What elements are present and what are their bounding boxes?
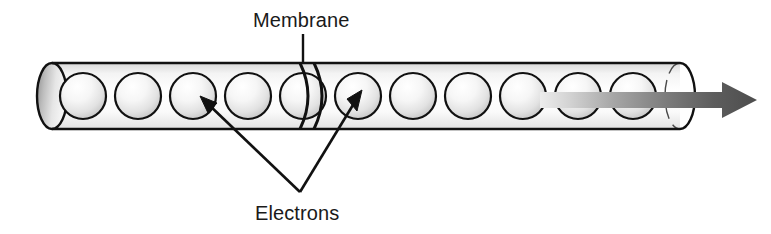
diagram-root: Membrane Electrons (0, 0, 771, 234)
electron-sphere (445, 73, 491, 119)
electron-sphere (60, 73, 106, 119)
electron-sphere (225, 73, 271, 119)
membrane-callout: Membrane (253, 9, 349, 63)
electron-sphere (115, 73, 161, 119)
membrane-label: Membrane (253, 9, 349, 31)
electron-sphere (390, 73, 436, 119)
electrons-label: Electrons (255, 202, 339, 224)
electron-sphere (500, 73, 546, 119)
electron-tube-diagram: Membrane Electrons (0, 0, 771, 234)
